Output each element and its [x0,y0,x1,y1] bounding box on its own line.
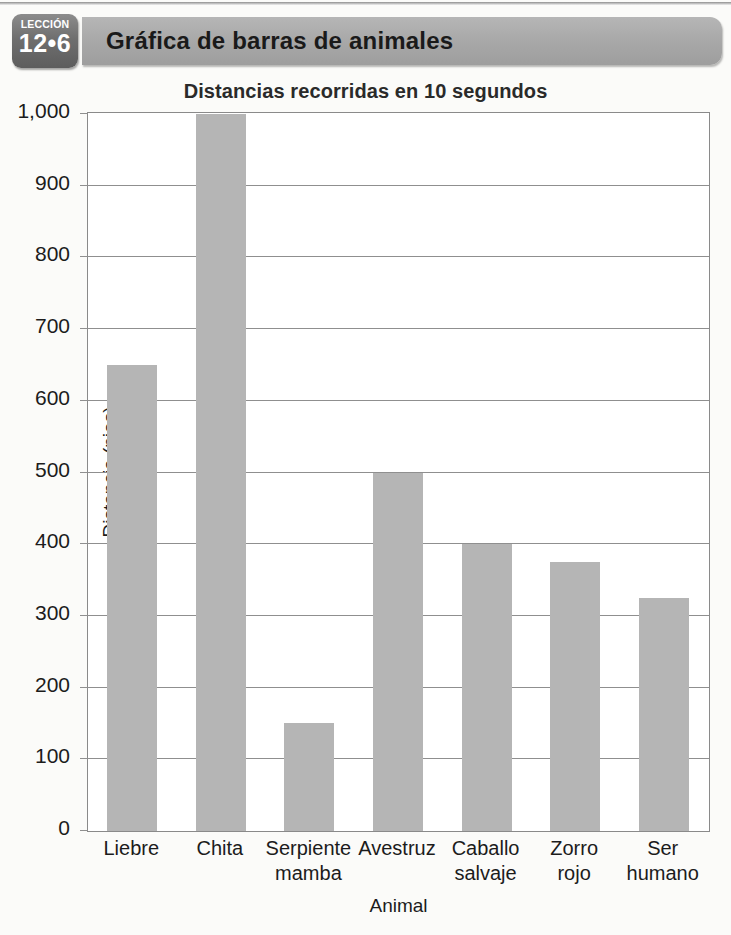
y-axis-tick-mark [80,185,88,186]
y-axis-tick-mark [80,328,88,329]
bar [107,365,157,831]
x-axis-title: Animal [87,895,710,917]
x-axis-tick-label-line: humano [618,861,707,886]
x-axis-tick-label: Avestruz [353,836,442,861]
page-title: Gráfica de barras de animales [106,27,453,55]
y-axis-tick-label: 700 [0,314,70,338]
x-axis-tick-label-line: Liebre [87,836,176,861]
lesson-header: LECCIÓN 12•6 Gráfica de barras de animal… [0,14,731,68]
chart-title: Distancias recorridas en 10 segundos [0,80,731,103]
y-axis-tick-mark [80,472,88,473]
y-axis-tick-mark [80,256,88,257]
x-axis-tick-label-line: rojo [530,861,619,886]
bar [196,114,246,831]
y-axis-tick-mark [80,400,88,401]
x-axis-tick-label-line: mamba [264,861,353,886]
x-axis-tick-label: Caballosalvaje [441,836,530,886]
y-axis-tick-mark [80,687,88,688]
bar [284,723,334,831]
y-axis-tick-mark [80,758,88,759]
gridline [88,400,709,401]
chart-plot-area: Distancia (pies) 01002003004005006007008… [87,112,710,832]
y-axis-tick-mark [80,615,88,616]
y-axis-tick-label: 400 [0,529,70,553]
y-axis-tick-mark [80,113,88,114]
top-divider-rule [0,2,731,5]
y-axis-tick-label: 300 [0,601,70,625]
x-axis-tick-label: Serhumano [618,836,707,886]
x-axis-tick-label-line: Serpiente [264,836,353,861]
x-axis-tick-label: Serpientemamba [264,836,353,886]
y-axis-tick-mark [80,543,88,544]
x-axis-tick-label: Liebre [87,836,176,861]
bar [639,598,689,831]
lesson-badge-number: 12•6 [12,30,78,57]
y-axis-tick-label: 800 [0,242,70,266]
gridline [88,185,709,186]
gridline [88,256,709,257]
x-axis-tick-label-line: salvaje [441,861,530,886]
x-axis-tick-label-line: Avestruz [353,836,442,861]
gridline [88,328,709,329]
y-axis-tick-label: 200 [0,673,70,697]
y-axis-tick-label: 100 [0,744,70,768]
y-axis-tick-label: 0 [0,816,70,840]
y-axis-tick-mark [80,830,88,831]
x-axis-tick-label: Zorrorojo [530,836,619,886]
x-axis-tick-label-line: Ser [618,836,707,861]
x-axis-tick-label-line: Zorro [530,836,619,861]
lesson-badge: LECCIÓN 12•6 [12,14,78,68]
x-axis-tick-label-line: Chita [176,836,265,861]
x-axis-tick-label-line: Caballo [441,836,530,861]
y-axis-tick-label: 1,000 [0,99,70,123]
y-axis-tick-label: 500 [0,458,70,482]
y-axis-tick-label: 900 [0,171,70,195]
header-banner: Gráfica de barras de animales [82,17,722,65]
y-axis-tick-label: 600 [0,386,70,410]
bar [373,473,423,832]
bar [462,544,512,831]
x-axis-tick-labels: LiebreChitaSerpientemambaAvestruzCaballo… [87,836,710,898]
bar [550,562,600,831]
x-axis-tick-label: Chita [176,836,265,861]
